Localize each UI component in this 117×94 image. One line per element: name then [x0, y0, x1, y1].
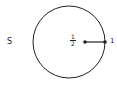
fraction-numerator: 1 [71, 33, 75, 40]
set-label: S [7, 38, 12, 46]
outer-point-label: 1 [110, 38, 114, 45]
outer-point [103, 40, 107, 44]
fraction-denominator: 2 [71, 40, 75, 47]
inner-point [83, 40, 87, 44]
diagram-canvas [0, 0, 117, 94]
inner-point-label: 1 2 [70, 34, 76, 47]
